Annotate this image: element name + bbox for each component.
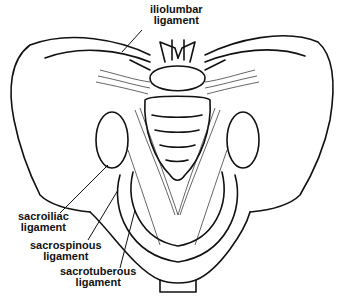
label-line: ligament (60, 277, 136, 288)
label-line: ligament (30, 251, 102, 262)
label-sacroiliac-ligament: sacroiliac ligament (18, 211, 69, 233)
label-iliolumbar-ligament: iliolumbar ligament (150, 4, 203, 26)
label-sacrospinous-ligament: sacrospinous ligament (30, 240, 102, 262)
label-line: ligament (18, 222, 69, 233)
label-line: ligament (150, 15, 203, 26)
pelvis-ligament-diagram: iliolumbar ligament sacroiliac ligament … (0, 0, 341, 299)
label-sacrotuberous-ligament: sacrotuberous ligament (60, 266, 136, 288)
